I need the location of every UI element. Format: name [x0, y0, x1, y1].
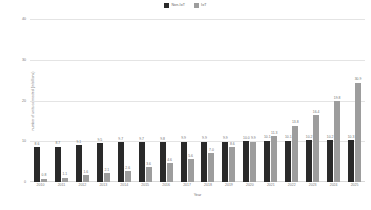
bar-value-label: 1.6 — [83, 171, 88, 174]
bar-non-iot-2024[interactable]: 10.2 — [327, 140, 333, 182]
bar-iot-2015[interactable]: 3.6 — [146, 167, 152, 182]
bar-group: 9.72.6 — [114, 19, 135, 182]
bar-iot-2025[interactable]: 30.9 — [355, 83, 361, 182]
bar-non-iot-2015[interactable]: 9.7 — [139, 142, 145, 182]
bar-non-iot-2020[interactable]: 10.0 — [243, 141, 249, 182]
bar-iot-2010[interactable]: 0.8 — [41, 179, 47, 182]
bar-iot-2020[interactable]: 9.9 — [250, 142, 256, 182]
bar-iot-2021[interactable]: 11.3 — [271, 136, 277, 182]
plot-area: number of units connected (in billions) … — [30, 19, 365, 182]
bar-group: 9.52.1 — [93, 19, 114, 182]
bar-non-iot-2017[interactable]: 9.9 — [181, 142, 187, 182]
bar-non-iot-2014[interactable]: 9.7 — [118, 142, 124, 182]
x-tick-label-2020: 2020 — [239, 183, 260, 187]
bar-iot-2012[interactable]: 1.6 — [83, 175, 89, 182]
bar-value-label: 9.1 — [76, 141, 81, 144]
bar-groups: 8.60.88.71.19.11.69.52.19.72.69.73.69.84… — [30, 19, 365, 182]
bar-group: 9.11.6 — [72, 19, 93, 182]
bar-value-label: 9.7 — [139, 138, 144, 141]
bar-value-label: 0.8 — [42, 174, 47, 177]
x-tick-label-2019: 2019 — [218, 183, 239, 187]
bar-value-label: 9.5 — [97, 139, 102, 142]
legend-label-non-iot: Non-IoT — [171, 3, 185, 7]
y-tick-label-10: 10 — [3, 139, 29, 143]
bar-group: 8.60.8 — [30, 19, 51, 182]
bar-value-label: 11.3 — [271, 132, 277, 135]
bar-value-label: 16.4 — [313, 111, 320, 114]
y-tick-label-20: 20 — [3, 99, 29, 103]
bar-value-label: 19.8 — [334, 97, 341, 100]
bar-non-iot-2021[interactable]: 10.1 — [264, 141, 270, 182]
bar-value-label: 3.6 — [146, 163, 151, 166]
bar-value-label: 9.9 — [202, 137, 207, 140]
bar-non-iot-2011[interactable]: 8.7 — [55, 147, 61, 182]
bar-non-iot-2025[interactable]: 10.3 — [348, 140, 354, 182]
bar-non-iot-2012[interactable]: 9.1 — [76, 145, 82, 182]
x-tick-label-2021: 2021 — [260, 183, 281, 187]
bar-iot-2016[interactable]: 4.6 — [167, 163, 173, 182]
bar-value-label: 8.6 — [35, 143, 40, 146]
bar-value-label: 2.6 — [125, 167, 130, 170]
bar-iot-2017[interactable]: 5.6 — [188, 159, 194, 182]
bar-group: 9.84.6 — [156, 19, 177, 182]
x-tick-label-2023: 2023 — [302, 183, 323, 187]
y-tick-label-40: 40 — [3, 17, 29, 21]
bar-value-label: 9.9 — [181, 137, 186, 140]
bar-iot-2014[interactable]: 2.6 — [125, 171, 131, 182]
bar-value-label: 13.8 — [292, 121, 299, 124]
x-tick-label-2013: 2013 — [93, 183, 114, 187]
x-tick-label-2011: 2011 — [51, 183, 72, 187]
bar-group: 10.111.3 — [260, 19, 281, 182]
bar-group: 9.95.6 — [177, 19, 198, 182]
bar-value-label: 30.9 — [355, 78, 362, 81]
bar-group: 10.113.8 — [281, 19, 302, 182]
bar-value-label: 4.6 — [167, 159, 172, 162]
bar-group: 9.73.6 — [135, 19, 156, 182]
legend-item-non-iot[interactable]: Non-IoT — [164, 3, 185, 8]
bar-iot-2011[interactable]: 1.1 — [62, 178, 68, 182]
x-tick-label-2016: 2016 — [156, 183, 177, 187]
y-tick-label-30: 30 — [3, 58, 29, 62]
legend-swatch-iot-square-icon — [194, 3, 199, 8]
bar-group: 9.97.0 — [198, 19, 219, 182]
bar-value-label: 10.1 — [285, 136, 292, 139]
x-tick-label-2018: 2018 — [198, 183, 219, 187]
bar-value-label: 8.7 — [56, 142, 61, 145]
x-tick-label-2010: 2010 — [30, 183, 51, 187]
bar-value-label: 2.1 — [104, 169, 109, 172]
bar-non-iot-2010[interactable]: 8.6 — [34, 147, 40, 182]
bar-group: 8.71.1 — [51, 19, 72, 182]
bar-group: 9.98.6 — [218, 19, 239, 182]
bar-non-iot-2016[interactable]: 9.8 — [160, 142, 166, 182]
x-tick-label-2022: 2022 — [281, 183, 302, 187]
bar-group: 10.330.9 — [344, 19, 365, 182]
bar-value-label: 10.0 — [243, 137, 250, 140]
x-tick-label-2025: 2025 — [344, 183, 365, 187]
bar-value-label: 9.9 — [251, 137, 256, 140]
legend-swatch-non-iot-square-icon — [164, 3, 169, 8]
bar-value-label: 9.8 — [160, 138, 165, 141]
bar-non-iot-2023[interactable]: 10.2 — [306, 140, 312, 182]
x-tick-label-2014: 2014 — [114, 183, 135, 187]
chart-legend: Non-IoT IoT — [0, 3, 371, 8]
bar-value-label: 7.0 — [209, 149, 214, 152]
bar-iot-2023[interactable]: 16.4 — [313, 115, 319, 182]
bar-value-label: 9.7 — [118, 138, 123, 141]
bar-non-iot-2013[interactable]: 9.5 — [97, 143, 103, 182]
bar-non-iot-2019[interactable]: 9.9 — [222, 142, 228, 182]
bar-iot-2018[interactable]: 7.0 — [208, 153, 214, 182]
legend-item-iot[interactable]: IoT — [194, 3, 207, 8]
bar-non-iot-2022[interactable]: 10.1 — [285, 141, 291, 182]
y-tick-label-0: 0 — [3, 180, 29, 184]
bar-non-iot-2018[interactable]: 9.9 — [201, 142, 207, 182]
x-tick-label-2017: 2017 — [177, 183, 198, 187]
bar-iot-2024[interactable]: 19.8 — [334, 101, 340, 182]
legend-label-iot: IoT — [201, 3, 207, 7]
bar-value-label: 8.6 — [230, 143, 235, 146]
bar-value-label: 1.1 — [63, 173, 68, 176]
x-axis-title: Year — [30, 193, 365, 197]
bar-iot-2019[interactable]: 8.6 — [229, 147, 235, 182]
bar-iot-2022[interactable]: 13.8 — [292, 126, 298, 182]
bar-value-label: 10.2 — [327, 136, 334, 139]
bar-iot-2013[interactable]: 2.1 — [104, 173, 110, 182]
